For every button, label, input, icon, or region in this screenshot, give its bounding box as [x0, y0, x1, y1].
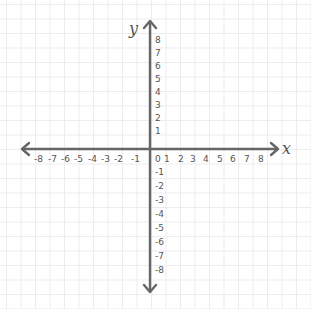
y-tick-8: 8 — [155, 35, 161, 45]
x-tick-2: 2 — [178, 154, 184, 164]
y-tick-neg-4: -4 — [155, 209, 164, 219]
y-axis-label: y — [129, 21, 138, 37]
y-tick-neg-6: -6 — [155, 237, 164, 247]
y-tick-7: 7 — [155, 48, 161, 58]
y-tick-2: 2 — [155, 113, 161, 123]
y-tick-6: 6 — [155, 61, 161, 71]
y-tick-neg-7: -7 — [155, 251, 164, 261]
x-tick-neg-1: -1 — [131, 154, 140, 164]
y-tick-neg-1: -1 — [155, 167, 164, 177]
y-tick-neg-5: -5 — [155, 223, 164, 233]
y-tick-4: 4 — [155, 87, 161, 97]
x-tick-neg-5: -5 — [74, 154, 83, 164]
x-tick-3: 3 — [190, 154, 196, 164]
y-tick-3: 3 — [155, 100, 161, 110]
x-tick-neg-3: -3 — [101, 154, 110, 164]
y-tick-5: 5 — [155, 74, 161, 84]
y-tick-neg-2: -2 — [155, 181, 164, 191]
x-tick-4: 4 — [203, 154, 209, 164]
y-tick-neg-8: -8 — [155, 265, 164, 275]
x-tick-8: 8 — [258, 154, 264, 164]
x-tick-6: 6 — [230, 154, 236, 164]
x-axis-label: x — [282, 141, 291, 157]
x-tick-origin: 0 — [155, 154, 161, 164]
x-tick-neg-2: -2 — [114, 154, 123, 164]
x-tick-1: 1 — [164, 154, 170, 164]
x-tick-5: 5 — [217, 154, 223, 164]
y-tick-1: 1 — [155, 126, 161, 136]
x-tick-neg-8: -8 — [34, 154, 43, 164]
y-tick-neg-3: -3 — [155, 195, 164, 205]
x-tick-neg-7: -7 — [48, 154, 57, 164]
x-tick-7: 7 — [244, 154, 250, 164]
x-tick-neg-6: -6 — [61, 154, 70, 164]
x-tick-neg-4: -4 — [88, 154, 97, 164]
